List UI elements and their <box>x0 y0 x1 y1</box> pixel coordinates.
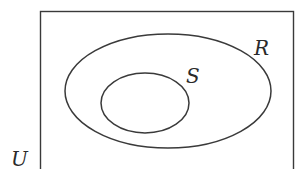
venn-diagram: R S U <box>0 0 296 169</box>
set-s-label: S <box>186 64 200 88</box>
set-s-ellipse <box>101 73 189 133</box>
set-r-ellipse <box>65 34 271 148</box>
universe-label: U <box>11 147 29 169</box>
set-r-label: R <box>253 36 269 60</box>
